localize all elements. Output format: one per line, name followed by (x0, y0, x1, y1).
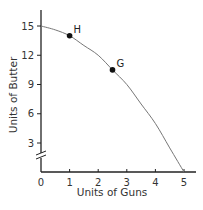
ticks: 0123453691215 (21, 21, 187, 189)
x-axis-label: Units of Guns (77, 186, 148, 198)
y-tick-label: 9 (28, 79, 34, 90)
x-tick-label: 5 (181, 177, 187, 188)
y-axis-label: Units of Butter (7, 56, 19, 133)
data-points: HG (67, 24, 124, 73)
point-label: H (74, 24, 82, 35)
y-tick-label: 6 (28, 108, 34, 119)
point-h: H (67, 24, 81, 39)
axes (36, 10, 196, 172)
x-tick-label: 4 (152, 177, 158, 188)
y-tick-label: 15 (21, 21, 34, 32)
ppf-curve (41, 26, 184, 172)
point-g: G (110, 58, 125, 73)
ppf-chart: 0123453691215 HG Units of Guns Units of … (0, 0, 203, 210)
y-tick-label: 3 (28, 138, 34, 149)
x-tick-label: 0 (38, 177, 44, 188)
x-tick-label: 1 (66, 177, 72, 188)
point-label: G (117, 58, 125, 69)
y-tick-label: 12 (21, 50, 34, 61)
